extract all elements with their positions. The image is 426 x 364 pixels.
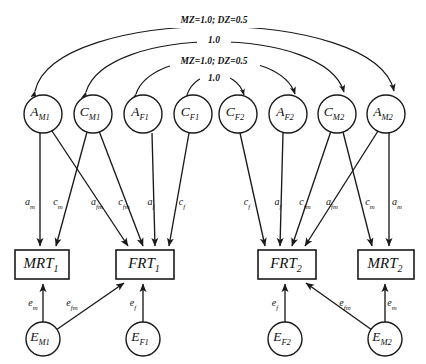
path-label-e-m-left: em (28, 297, 37, 310)
path-label-c-f-left: cf (179, 196, 186, 209)
node-A-M2[interactable]: AM2 (367, 95, 405, 133)
node-E-F2[interactable]: EF2 (268, 322, 302, 356)
path-a-f-AF2-FRT2 (280, 133, 283, 246)
path-label-c-f-right: cf (244, 196, 251, 209)
path-label-a-m-right: am (392, 196, 402, 209)
path-c-fm-CM2-FRT2 (292, 131, 331, 246)
path-label-a-fm-right: afm (326, 196, 338, 209)
path-label-e-m-right: em (387, 297, 396, 310)
arc-label-AF1-AF2: MZ=1.0; DZ=0.5 (179, 56, 247, 66)
node-E-M2[interactable]: EM2 (368, 322, 402, 356)
diagram-svg: MZ=1.0; DZ=0.5 1.0 MZ=1.0; DZ=0.5 1.0 (0, 0, 426, 364)
node-MRT1[interactable]: MRT1 (15, 250, 69, 279)
path-c-f-CF2-FRT2 (240, 133, 265, 246)
node-E-M1[interactable]: EM1 (26, 322, 60, 356)
path-a-f-AF1-FRT1 (152, 133, 155, 246)
path-c-fm-CM1-FRT1 (99, 131, 143, 246)
node-C-M2[interactable]: CM2 (318, 95, 356, 133)
paths-error-group (43, 283, 385, 330)
arc-label-CM1-CM2: 1.0 (208, 35, 220, 45)
error-nodes-group: EM1 EF1 EF2 EM2 (26, 322, 402, 356)
node-C-M1[interactable]: CM1 (74, 95, 112, 133)
arc-label-AM1-AM2: MZ=1.0; DZ=0.5 (179, 15, 247, 25)
path-a-fm-AM1-FRT1 (52, 131, 128, 246)
error-path-labels-group: em efm ef ef efm em (28, 297, 396, 310)
path-label-c-fm-right: cfm (299, 196, 310, 209)
node-A-M1[interactable]: AM1 (24, 95, 62, 133)
path-label-a-m-left: am (25, 196, 35, 209)
arc-label-CF1-CF2: 1.0 (208, 73, 220, 83)
path-label-e-f-left: ef (130, 297, 137, 310)
path-label-c-m-right: cm (365, 196, 374, 209)
path-label-e-f-right: ef (272, 297, 279, 310)
node-C-F1[interactable]: CF1 (174, 95, 212, 133)
node-A-F1[interactable]: AF1 (124, 95, 162, 133)
arc-labels-group: MZ=1.0; DZ=0.5 1.0 MZ=1.0; DZ=0.5 1.0 (170, 13, 260, 85)
node-FRT2[interactable]: FRT2 (258, 250, 316, 279)
path-label-c-m-left: cm (53, 196, 62, 209)
path-label-e-fm-right: efm (339, 297, 350, 310)
node-MRT2[interactable]: MRT2 (358, 250, 414, 279)
observed-nodes-group: MRT1 FRT1 FRT2 MRT2 (15, 250, 414, 279)
node-FRT1[interactable]: FRT1 (116, 250, 174, 279)
path-c-m-CM2-MRT2 (343, 132, 372, 246)
path-label-e-fm-left: efm (66, 297, 77, 310)
node-C-F2[interactable]: CF2 (219, 95, 257, 133)
path-diagram-canvas: MZ=1.0; DZ=0.5 1.0 MZ=1.0; DZ=0.5 1.0 (0, 0, 426, 364)
path-c-f-CF1-FRT1 (169, 133, 189, 246)
node-A-F2[interactable]: AF2 (269, 95, 307, 133)
paths-right-group (240, 131, 389, 246)
latent-nodes-group: AM1 CM1 AF1 CF1 (24, 95, 405, 133)
node-E-F1[interactable]: EF1 (126, 322, 160, 356)
paths-left-group (40, 131, 189, 246)
path-c-m-CM1-MRT1 (56, 132, 87, 246)
path-labels-group: am cm afm cfm af cf cf af (25, 196, 402, 209)
